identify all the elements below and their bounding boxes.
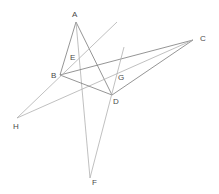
vertex-label-H: H <box>13 123 19 131</box>
segment-B-D <box>60 75 112 95</box>
vertex-label-D: D <box>113 98 119 106</box>
vertex-label-E: E <box>70 54 75 62</box>
segment-group <box>17 22 193 178</box>
vertex-label-A: A <box>72 11 77 19</box>
vertex-label-C: C <box>200 35 206 43</box>
vertex-label-G: G <box>118 74 124 82</box>
vertex-label-F: F <box>92 179 97 187</box>
geometry-figure: A B C D E F G H <box>0 0 219 194</box>
geometry-canvas <box>0 0 219 194</box>
segment-D-C <box>112 40 193 95</box>
segment-H-E-extension <box>17 22 117 118</box>
vertex-label-B: B <box>51 72 56 80</box>
segment-H-C <box>17 40 193 118</box>
segment-A-B <box>60 22 76 75</box>
segment-F-D-extension <box>90 47 124 178</box>
